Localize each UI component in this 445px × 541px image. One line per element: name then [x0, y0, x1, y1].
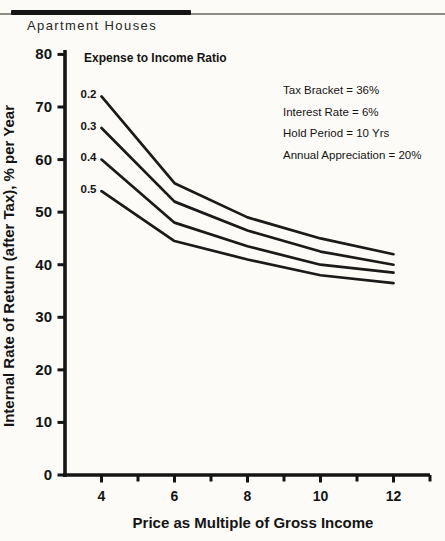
y-tick-label-50: 50 [35, 203, 52, 220]
x-tick-label-10: 10 [313, 488, 329, 504]
annotation-2: Interest Rate = 6% [283, 106, 379, 118]
y-tick-label-80: 80 [35, 45, 52, 62]
y-tick-label-30: 30 [35, 308, 52, 325]
series-label-0.3: 0.3 [81, 120, 97, 132]
y-tick-label-70: 70 [35, 98, 52, 115]
x-tick-label-4: 4 [98, 488, 106, 504]
annotation-3: Hold Period = 10 Yrs [283, 127, 389, 139]
series-label-0.5: 0.5 [81, 183, 98, 195]
irr-vs-price-line-chart: 0102030405060708046810120.20.30.40.5Expe… [0, 0, 445, 541]
series-label-0.2: 0.2 [81, 88, 97, 100]
y-tick-label-20: 20 [35, 361, 52, 378]
scanned-book-page: Apartment Houses 01020304050607080468101… [0, 0, 445, 541]
y-tick-label-0: 0 [44, 466, 52, 483]
annotation-4: Annual Appreciation = 20% [283, 149, 421, 161]
y-axis-title: Internal Rate of Return (after Tax), % p… [0, 105, 17, 427]
x-tick-label-8: 8 [244, 488, 252, 504]
page-title: Apartment Houses [27, 18, 157, 33]
y-tick-label-60: 60 [35, 151, 52, 168]
y-tick-label-10: 10 [35, 413, 52, 430]
series-label-0.4: 0.4 [81, 151, 98, 163]
legend-heading: Expense to Income Ratio [84, 51, 227, 65]
annotation-1: Tax Bracket = 36% [283, 84, 379, 96]
x-tick-label-6: 6 [171, 488, 179, 504]
header-rule-thick [11, 10, 191, 15]
x-axis-title: Price as Multiple of Gross Income [133, 514, 374, 531]
series-line-0.5 [102, 191, 394, 283]
y-tick-label-40: 40 [35, 256, 52, 273]
x-tick-label-12: 12 [386, 488, 402, 504]
